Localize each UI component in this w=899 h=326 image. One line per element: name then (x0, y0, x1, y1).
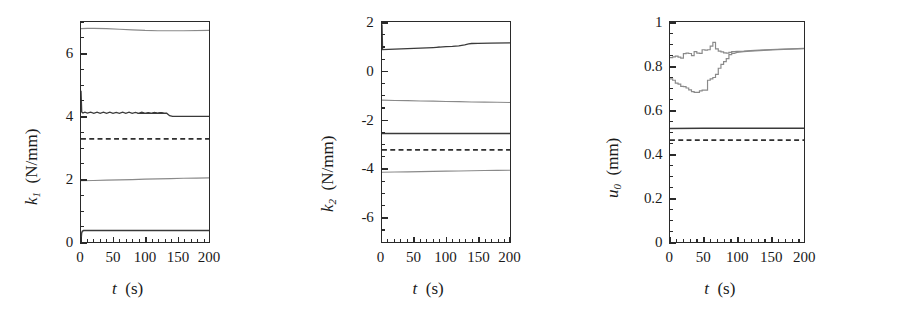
ytick-minor (381, 156, 385, 157)
ytick-minor (80, 211, 84, 212)
ytick-minor (80, 85, 84, 86)
yaxis-title-units: (N/mm) (318, 136, 337, 191)
ytick-k2-2 (381, 22, 388, 24)
panel-u0: 1 0.8 0.6 0.4 0.2 0 0 50 100 150 200 (599, 0, 899, 326)
ytick-k2-neg4 (381, 168, 388, 170)
xtick-minor (504, 239, 505, 243)
yaxis-title-u0: u0 (mm) (603, 138, 623, 198)
xtick-label-k1: 0 (66, 249, 94, 266)
xtick-minor (204, 239, 205, 243)
xtick-minor (119, 239, 120, 243)
xtick-minor (126, 239, 127, 243)
xtick-minor (785, 239, 786, 243)
ytick-minor (381, 83, 385, 84)
ytick-minor (80, 148, 84, 149)
ytick-minor (80, 22, 84, 23)
ytick-label-k2: 2 (344, 14, 374, 31)
ytick-label-k1: 2 (48, 171, 73, 188)
xtick-minor (758, 239, 759, 243)
yaxis-title-k1: k1 (N/mm) (22, 129, 42, 205)
xtick-minor (171, 239, 172, 243)
ytick-minor (381, 181, 385, 182)
ytick-minor (669, 220, 673, 221)
ytick-u0-02 (669, 198, 676, 200)
yaxis-title-subscript: 0 (611, 184, 623, 190)
xtick-minor (197, 239, 198, 243)
xtick-u0-50 (703, 237, 705, 243)
xtick-minor (485, 239, 486, 243)
ytick-minor (669, 55, 673, 56)
xaxis-title-symbol: t (112, 279, 117, 298)
ytick-minor (669, 88, 673, 89)
ytick-minor (669, 33, 673, 34)
xtick-label-k1: 200 (192, 249, 226, 266)
xtick-minor (387, 239, 388, 243)
xtick-k1-50 (113, 237, 115, 243)
xtick-label-k2: 0 (367, 249, 395, 266)
xtick-minor (158, 239, 159, 243)
xtick-minor (751, 239, 752, 243)
ytick-minor (669, 176, 673, 177)
ytick-u0-04 (669, 154, 676, 156)
xtick-minor (730, 239, 731, 243)
ytick-minor (80, 163, 84, 164)
ytick-minor (381, 95, 385, 96)
xtick-minor (798, 239, 799, 243)
ytick-label-k1: 4 (48, 108, 73, 125)
yaxis-title-symbol: k (318, 204, 337, 212)
ytick-k1-6 (80, 53, 87, 55)
ytick-label-k2: -4 (344, 160, 374, 177)
xtick-k2-150 (478, 237, 480, 243)
ytick-minor (669, 165, 673, 166)
xtick-k2-200 (509, 237, 511, 243)
ytick-label-u0: 0.2 (623, 190, 662, 207)
plot-area-k2 (381, 21, 511, 243)
xtick-minor (498, 239, 499, 243)
xtick-k2-50 (413, 237, 415, 243)
xtick-minor (710, 239, 711, 243)
yaxis-title-subscript: 1 (30, 192, 42, 198)
ytick-minor (381, 144, 385, 145)
xaxis-title-units: (s) (426, 279, 444, 298)
xtick-minor (792, 239, 793, 243)
ytick-minor (381, 132, 385, 133)
xtick-label-u0: 200 (787, 249, 821, 266)
xtick-u0-200 (804, 237, 806, 243)
xtick-minor (87, 239, 88, 243)
xaxis-title-k1: t (s) (112, 279, 143, 299)
ytick-u0-06 (669, 110, 676, 112)
xtick-label-u0: 100 (720, 249, 754, 266)
ytick-label-u0: 0.4 (623, 146, 662, 163)
xtick-minor (472, 239, 473, 243)
ytick-k2-neg6 (381, 217, 388, 219)
xtick-label-u0: 50 (688, 249, 718, 266)
ytick-minor (669, 77, 673, 78)
ytick-minor (80, 195, 84, 196)
ytick-u0-1 (669, 22, 676, 24)
xtick-label-k2: 100 (429, 249, 463, 266)
xtick-u0-0 (669, 237, 671, 243)
xtick-minor (132, 239, 133, 243)
xtick-minor (100, 239, 101, 243)
xtick-k1-200 (209, 237, 211, 243)
panel-k1: 0 2 4 6 0 50 100 150 200 t ( (0, 0, 300, 326)
ytick-k2-neg2 (381, 120, 388, 122)
ytick-label-k2: -6 (344, 209, 374, 226)
panel-k2: 2 0 -2 -4 -6 0 50 100 150 200 t (s) (300, 0, 600, 326)
xtick-minor (106, 239, 107, 243)
plot-area-u0 (669, 21, 805, 243)
xtick-minor (139, 239, 140, 243)
xtick-minor (191, 239, 192, 243)
xtick-k2-0 (381, 237, 383, 243)
ytick-label-k1: 6 (48, 45, 73, 62)
ytick-minor (80, 69, 84, 70)
xaxis-title-k2: t (s) (413, 279, 444, 299)
xtick-minor (676, 239, 677, 243)
xtick-k1-150 (178, 237, 180, 243)
ytick-minor (381, 107, 385, 108)
xtick-k1-100 (145, 237, 147, 243)
ytick-minor (669, 143, 673, 144)
ytick-minor (669, 99, 673, 100)
ytick-minor (381, 34, 385, 35)
figure-three-panel-parameter-plots: 0 2 4 6 0 50 100 150 200 t ( (0, 0, 899, 326)
